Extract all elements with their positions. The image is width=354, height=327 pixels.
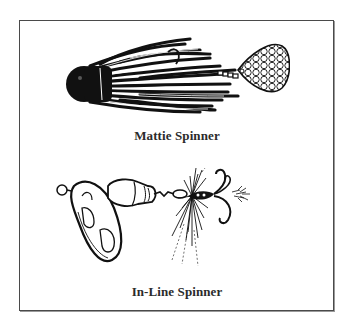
mattie-spinner-illustration bbox=[60, 34, 290, 114]
in-line-spinner-illustration bbox=[52, 168, 272, 272]
in-line-spinner-caption: In-Line Spinner bbox=[0, 284, 354, 300]
mattie-spinner-caption: Mattie Spinner bbox=[0, 128, 354, 144]
